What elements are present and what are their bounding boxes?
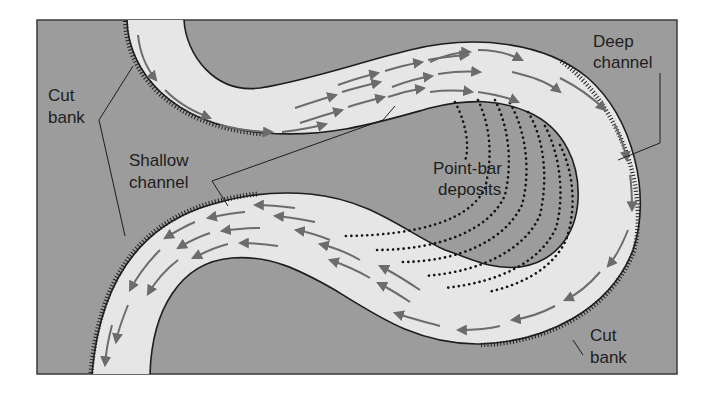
label-point-bar-line2: deposits [438,180,501,199]
label-deep-channel-line1: Deep [593,32,634,51]
label-shallow-channel-line1: Shallow [129,151,189,170]
label-point-bar-line1: Point-bar [433,159,502,178]
label-cut-bank-lower-line2: bank [590,348,627,367]
label-cut-bank-lower-line1: Cut [590,326,617,345]
meander-diagram: Cut bank Shallow channel Deep channel Po… [0,0,705,396]
label-cut-bank-upper-line2: bank [48,108,85,127]
label-deep-channel-line2: channel [593,53,653,72]
label-shallow-channel-line2: channel [129,173,189,192]
label-cut-bank-upper-line1: Cut [48,86,75,105]
